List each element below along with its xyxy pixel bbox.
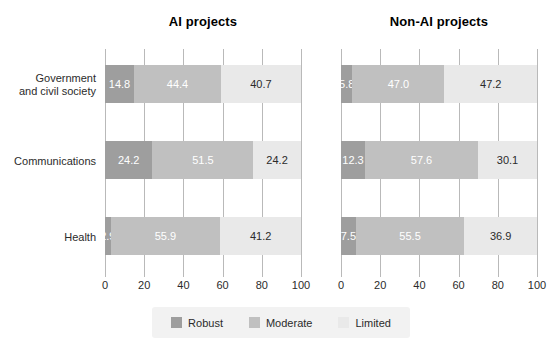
bar-segment-robust: 7.5 — [341, 217, 356, 255]
x-axis-tick-mark — [498, 271, 499, 277]
x-axis-tick-mark — [459, 271, 460, 277]
legend-label: Limited — [355, 317, 390, 329]
bar-value-label: 44.4 — [167, 79, 188, 90]
category-label-communications: Communications — [0, 155, 96, 168]
x-axis-tick-label: 80 — [247, 279, 277, 291]
bar-segment-limited: 47.2 — [444, 65, 537, 103]
bar-segment-limited: 24.2 — [253, 141, 300, 179]
bar-value-label: 7.5 — [341, 231, 356, 242]
x-axis-tick-mark — [105, 271, 106, 277]
bar-segment-limited: 41.2 — [220, 217, 301, 255]
category-label-line-1: Government — [0, 72, 96, 85]
legend-swatch-icon — [171, 317, 182, 328]
x-axis-tick-mark — [301, 271, 302, 277]
x-axis-tick-label: 40 — [168, 279, 198, 291]
bar-row: 5.847.047.2 — [341, 65, 537, 103]
bar-value-label: 55.5 — [399, 231, 420, 242]
bar-segment-limited: 36.9 — [464, 217, 536, 255]
category-label-line-1: Communications — [0, 155, 96, 168]
x-axis-tick-label: 100 — [522, 279, 552, 291]
bar-value-label: 51.5 — [192, 155, 213, 166]
bar-value-label: 57.6 — [411, 155, 432, 166]
x-axis-tick-mark — [262, 271, 263, 277]
bar-value-label: 24.2 — [266, 155, 287, 166]
bar-value-label: 41.2 — [250, 231, 271, 242]
gridline — [301, 49, 302, 271]
bar-segment-robust: 14.8 — [105, 65, 134, 103]
bar-row: 24.251.524.2 — [105, 141, 301, 179]
bar-row: 2.955.941.2 — [105, 217, 301, 255]
x-axis-tick-label: 20 — [365, 279, 395, 291]
legend-label: Moderate — [266, 317, 312, 329]
x-axis-tick-label: 0 — [90, 279, 120, 291]
bar-value-label: 55.9 — [155, 231, 176, 242]
bar-value-label: 47.0 — [388, 79, 409, 90]
bar-segment-moderate: 55.5 — [356, 217, 465, 255]
panel-title-ai-projects: AI projects — [105, 14, 301, 29]
legend-item[interactable]: Limited — [338, 317, 390, 329]
bar-segment-limited: 30.1 — [478, 141, 537, 179]
category-label-line-1: Health — [0, 231, 96, 244]
bar-value-label: 36.9 — [490, 231, 511, 242]
bar-value-label: 47.2 — [480, 79, 501, 90]
bar-value-label: 30.1 — [497, 155, 518, 166]
stacked-bar-chart: AI projects Non-AI projects Government a… — [0, 0, 554, 361]
x-axis-tick-mark — [341, 271, 342, 277]
x-axis-tick-label: 100 — [286, 279, 316, 291]
bar-row: 7.555.536.9 — [341, 217, 537, 255]
bar-value-label: 40.7 — [250, 79, 271, 90]
legend-item[interactable]: Moderate — [249, 317, 312, 329]
bar-segment-moderate: 51.5 — [152, 141, 253, 179]
x-axis-tick-mark — [537, 271, 538, 277]
legend-label: Robust — [188, 317, 223, 329]
bar-segment-moderate: 55.9 — [111, 217, 221, 255]
x-axis-tick-label: 40 — [404, 279, 434, 291]
panel-ai-projects: 14.844.440.724.251.524.22.955.941.2 — [105, 49, 301, 271]
category-label-health: Health — [0, 231, 96, 244]
bar-segment-moderate: 47.0 — [352, 65, 444, 103]
bar-segment-robust: 24.2 — [105, 141, 152, 179]
bar-segment-robust: 12.3 — [341, 141, 365, 179]
x-axis-tick-mark — [380, 271, 381, 277]
bar-segment-moderate: 57.6 — [365, 141, 478, 179]
legend-item[interactable]: Robust — [171, 317, 223, 329]
x-axis-tick-label: 80 — [483, 279, 513, 291]
bar-value-label: 24.2 — [118, 155, 139, 166]
bar-segment-limited: 40.7 — [221, 65, 301, 103]
x-axis-tick-mark — [183, 271, 184, 277]
x-axis-tick-label: 60 — [208, 279, 238, 291]
bar-value-label: 12.3 — [342, 155, 363, 166]
category-label-government-and-civil-society: Government and civil society — [0, 72, 96, 98]
bar-row: 12.357.630.1 — [341, 141, 537, 179]
legend-swatch-icon — [249, 317, 260, 328]
bar-segment-moderate: 44.4 — [134, 65, 221, 103]
x-axis-tick-label: 20 — [129, 279, 159, 291]
x-axis-tick-label: 0 — [326, 279, 356, 291]
bar-row: 14.844.440.7 — [105, 65, 301, 103]
bar-segment-robust: 5.8 — [341, 65, 352, 103]
bar-value-label: 14.8 — [109, 79, 130, 90]
category-label-line-2: and civil society — [0, 85, 96, 98]
panel-non-ai-projects: 5.847.047.212.357.630.17.555.536.9 — [341, 49, 537, 271]
legend: RobustModerateLimited — [152, 307, 410, 338]
x-axis-tick-mark — [223, 271, 224, 277]
x-axis-tick-label: 60 — [444, 279, 474, 291]
x-axis-tick-mark — [419, 271, 420, 277]
panel-title-non-ai-projects: Non-AI projects — [341, 14, 537, 29]
legend-swatch-icon — [338, 317, 349, 328]
x-axis-tick-mark — [144, 271, 145, 277]
gridline — [537, 49, 538, 271]
